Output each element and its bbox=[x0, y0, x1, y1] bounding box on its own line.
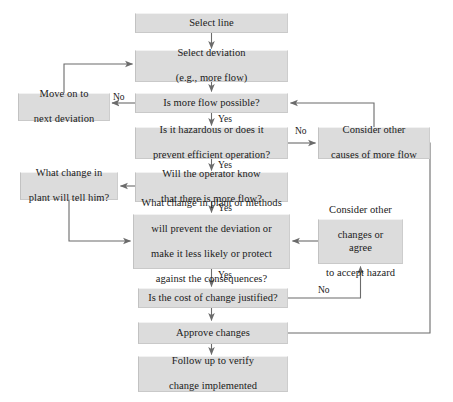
node-hazardous-line2: prevent efficient operation? bbox=[150, 149, 273, 162]
node-select-line[interactable]: Select line bbox=[135, 13, 288, 33]
node-consider-causes-line1: Consider other bbox=[328, 124, 420, 137]
node-move-on-line2: next deviation bbox=[31, 113, 97, 126]
node-approve-label: Approve changes bbox=[173, 327, 253, 340]
node-what-change-plant-line2: plant will tell him? bbox=[26, 192, 113, 205]
node-consider-changes-line2: changes or agree bbox=[322, 229, 399, 254]
node-operator-know-line1: Will the operator know bbox=[158, 168, 265, 181]
node-what-change-plant-line1: What change in bbox=[26, 167, 113, 180]
edge-label-yes-operator: Yes bbox=[218, 203, 232, 213]
node-consider-changes-line1: Consider other bbox=[322, 204, 399, 217]
flowchart-canvas: Select line Select deviation (e.g., more… bbox=[0, 0, 453, 402]
node-consider-other-changes[interactable]: Consider other changes or agree to accep… bbox=[318, 219, 403, 264]
edge-label-no-more-flow: No bbox=[113, 92, 125, 102]
node-follow-up-line1: Follow up to verify bbox=[166, 355, 260, 368]
node-methods-line3: make it less likely or protect bbox=[138, 248, 285, 261]
edge-whatchangeplant-to-methods bbox=[69, 200, 131, 241]
node-is-cost-justified[interactable]: Is the cost of change justified? bbox=[138, 288, 288, 308]
edge-label-no-cost: No bbox=[318, 285, 330, 295]
node-what-change-in-plant[interactable]: What change in plant will tell him? bbox=[20, 172, 118, 200]
node-follow-up-line2: change implemented bbox=[166, 380, 260, 393]
edge-label-yes-more-flow: Yes bbox=[218, 114, 232, 124]
node-is-it-hazardous[interactable]: Is it hazardous or does it prevent effic… bbox=[135, 127, 288, 159]
edge-label-yes-hazardous: Yes bbox=[218, 160, 232, 170]
node-move-on-line1: Move on to bbox=[31, 88, 97, 101]
node-what-change-plant-or-methods[interactable]: What change in plant or methods will pre… bbox=[133, 214, 290, 269]
node-methods-line2: will prevent the deviation or bbox=[138, 223, 285, 236]
node-more-flow-label: Is more flow possible? bbox=[160, 97, 262, 110]
node-consider-causes-line2: causes of more flow bbox=[328, 149, 420, 162]
node-consider-changes-line3: to accept hazard bbox=[322, 267, 399, 280]
node-consider-other-causes[interactable]: Consider other causes of more flow bbox=[318, 127, 430, 159]
node-approve-changes[interactable]: Approve changes bbox=[138, 322, 288, 344]
node-methods-line4: against the consequences? bbox=[138, 273, 285, 286]
node-select-line-label: Select line bbox=[186, 17, 237, 30]
edge-label-yes-methods: Yes bbox=[218, 270, 232, 280]
node-select-deviation-line2: (e.g., more flow) bbox=[173, 72, 251, 85]
node-methods-line1: What change in plant or methods bbox=[138, 197, 285, 210]
node-move-on-next-deviation[interactable]: Move on to next deviation bbox=[18, 93, 110, 121]
edge-label-no-hazardous: No bbox=[295, 126, 307, 136]
node-select-deviation[interactable]: Select deviation (e.g., more flow) bbox=[135, 50, 288, 82]
node-cost-label: Is the cost of change justified? bbox=[145, 292, 281, 305]
node-is-more-flow-possible[interactable]: Is more flow possible? bbox=[135, 93, 288, 113]
node-hazardous-line1: Is it hazardous or does it bbox=[150, 124, 273, 137]
node-follow-up[interactable]: Follow up to verify change implemented bbox=[138, 356, 288, 392]
node-select-deviation-line1: Select deviation bbox=[173, 47, 251, 60]
